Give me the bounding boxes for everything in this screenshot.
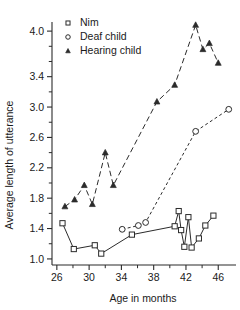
data-point-marker <box>60 221 65 226</box>
y-tick-label: 1.4 <box>29 222 44 234</box>
x-tick-label: 46 <box>212 271 224 283</box>
data-point-marker <box>129 232 134 237</box>
data-point-marker <box>135 223 141 229</box>
y-tick-label: 1.8 <box>29 192 44 204</box>
data-point-marker <box>193 22 199 28</box>
data-point-marker <box>203 223 208 228</box>
data-point-marker <box>89 201 95 207</box>
y-tick-label: 3.0 <box>29 101 44 113</box>
x-tick-label: 34 <box>116 271 128 283</box>
data-point-marker <box>66 21 70 25</box>
legend-label: Deaf child <box>80 30 127 42</box>
data-point-marker <box>179 227 184 232</box>
data-point-marker <box>226 106 232 112</box>
data-point-marker <box>172 224 177 229</box>
x-tick-label: 26 <box>51 271 63 283</box>
y-tick-label: 2.2 <box>29 161 44 173</box>
y-axis: 1.01.41.82.22.63.03.44.0 <box>29 22 52 265</box>
legend-label: Nim <box>80 16 99 28</box>
data-point-marker <box>215 60 221 66</box>
y-tick-label: 3.4 <box>29 70 44 82</box>
data-point-marker <box>200 46 206 52</box>
chart-figure: 1.01.41.82.22.63.03.44.0 263034384246 Ni… <box>0 0 240 310</box>
data-point-marker <box>72 196 78 202</box>
y-tick-label: 4.0 <box>29 25 44 37</box>
data-point-marker <box>186 215 191 220</box>
data-point-marker <box>62 203 68 209</box>
y-tick-label: 2.6 <box>29 131 44 143</box>
data-point-marker <box>193 128 199 134</box>
data-point-marker <box>176 208 181 213</box>
legend-item-nim[interactable]: Nim <box>66 16 99 28</box>
data-point-marker <box>99 251 104 256</box>
legend-item-deaf-child[interactable]: Deaf child <box>66 30 127 42</box>
legend-item-hearing-child[interactable]: Hearing child <box>66 44 142 56</box>
data-point-marker <box>211 213 216 218</box>
data-point-marker <box>110 182 116 188</box>
data-point-marker <box>172 82 178 88</box>
series-markers <box>60 22 232 256</box>
x-tick-label: 42 <box>180 271 192 283</box>
data-point-marker <box>154 99 160 105</box>
data-point-marker <box>196 236 201 241</box>
data-point-marker <box>119 226 125 232</box>
data-point-marker <box>66 49 71 53</box>
data-point-marker <box>143 220 149 226</box>
y-tick-label: 1.0 <box>29 253 44 265</box>
series-points-nim <box>60 208 216 256</box>
data-point-marker <box>182 244 187 249</box>
series-line-deaf-child <box>122 109 229 229</box>
x-tick-label: 38 <box>148 271 160 283</box>
data-point-marker <box>189 245 194 250</box>
chart-canvas: 1.01.41.82.22.63.03.44.0 263034384246 Ni… <box>0 0 240 310</box>
chart-legend: NimDeaf childHearing child <box>66 16 142 56</box>
data-point-marker <box>92 243 97 248</box>
data-point-marker <box>66 35 71 40</box>
legend-label: Hearing child <box>80 44 141 56</box>
y-axis-title: Average length of utterance <box>3 100 15 229</box>
x-axis: 263034384246 <box>51 265 236 283</box>
data-point-marker <box>102 149 108 155</box>
data-point-marker <box>206 40 212 46</box>
x-axis-title: Age in months <box>109 292 176 304</box>
data-point-marker <box>81 182 87 188</box>
data-point-marker <box>71 246 76 251</box>
x-tick-label: 30 <box>83 271 95 283</box>
